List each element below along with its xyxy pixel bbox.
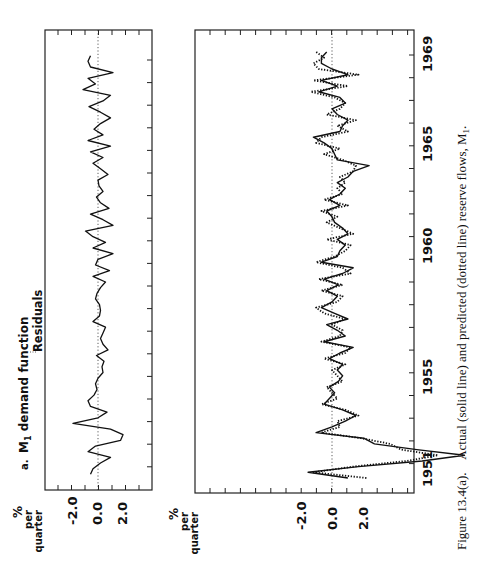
residuals-title-prefix: a. — [19, 459, 30, 470]
reserve-flows-x-tick-label: 1951 — [420, 451, 435, 487]
caption-text: Actual (solid line) and predicted (dotte… — [454, 133, 469, 460]
residuals-y-tick-label: -2.0 — [65, 497, 80, 525]
svg-text:1965: 1965 — [420, 126, 435, 162]
reserve-flows-x-tick-label: 1969 — [420, 36, 435, 72]
svg-text:Figure 13.4(a). Actual: Figure 13.4(a). Actual (solid line) and … — [454, 126, 471, 550]
svg-text:1969: 1969 — [420, 36, 435, 72]
reserve-flows-y-tick-label: 2.0 — [356, 507, 371, 530]
residuals-annotation-label: Residuals — [31, 289, 45, 352]
residuals-title-main: M — [17, 441, 31, 453]
reserve-flows-x-axis-labels: 19511955196019651969 — [420, 36, 435, 487]
svg-text:2.0: 2.0 — [356, 507, 371, 530]
residuals-panel: a. M1 demand function Residuals 2.00.0-2… — [11, 30, 152, 552]
predicted-series — [311, 52, 438, 478]
svg-text:2.0: 2.0 — [115, 502, 130, 525]
svg-text:1951: 1951 — [420, 451, 435, 487]
svg-text:-2.0: -2.0 — [294, 502, 309, 530]
caption-label: Figure 13.4(a). — [454, 472, 469, 550]
reserve-flows-y-tick-label: -2.0 — [294, 502, 309, 530]
residuals-y-axis-labels: 2.00.0-2.0 — [65, 497, 130, 525]
residuals-y-tick-label: 2.0 — [115, 502, 130, 525]
figure-page: a. M1 demand function Residuals 2.00.0-2… — [0, 0, 478, 561]
reserve-flows-y-axis-unit: %perquarter — [167, 508, 200, 554]
residuals-plot-frame — [45, 30, 152, 490]
caption-end: . — [454, 126, 469, 129]
svg-text:0.0: 0.0 — [90, 502, 105, 525]
residuals-y-tick-label: 0.0 — [90, 502, 105, 525]
reserve-flows-y-unit-line: quarter — [189, 512, 200, 555]
svg-text:quarter: quarter — [33, 510, 44, 553]
svg-text:quarter: quarter — [189, 512, 200, 555]
svg-text:-2.0: -2.0 — [65, 497, 80, 525]
residuals-annotation: Residuals — [31, 289, 45, 352]
reserve-flows-y-tick-label: 0.0 — [325, 507, 340, 530]
residuals-title-rest: demand function — [17, 317, 31, 436]
svg-text:0.0: 0.0 — [325, 507, 340, 530]
rotated-figure: a. M1 demand function Residuals 2.00.0-2… — [0, 0, 478, 561]
svg-text:1955: 1955 — [420, 359, 435, 395]
residuals-y-unit-line: quarter — [33, 510, 44, 553]
reserve-flows-ticks — [210, 30, 414, 493]
reserve-flows-x-tick-label: 1965 — [420, 126, 435, 162]
reserve-flows-y-axis-labels: 2.00.0-2.0 — [294, 502, 370, 530]
svg-text:1960: 1960 — [420, 228, 435, 264]
figure-caption: Figure 13.4(a). Actual (solid line) and … — [454, 126, 471, 550]
residuals-y-axis-unit: %perquarter — [11, 506, 44, 552]
reserve-flows-x-tick-label: 1960 — [420, 228, 435, 264]
reserve-flows-panel: 2.00.0-2.0 %perquarter 19511955196019651… — [167, 30, 465, 554]
reserve-flows-x-tick-label: 1955 — [420, 359, 435, 395]
reserve-flows-plot-frame — [195, 30, 414, 493]
